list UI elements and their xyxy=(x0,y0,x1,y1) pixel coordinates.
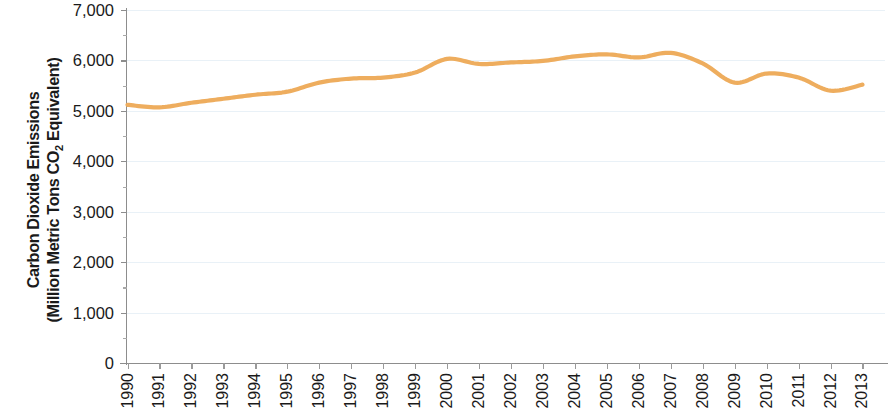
x-tick-label-2007: 2007 xyxy=(663,373,679,409)
x-tick-label-2005: 2005 xyxy=(599,373,615,409)
x-tick-label-2010: 2010 xyxy=(759,373,775,409)
x-tick-label-1996: 1996 xyxy=(311,373,327,409)
y-tick-0 xyxy=(121,363,127,364)
gridline-3000 xyxy=(127,212,885,213)
x-tick-2005 xyxy=(607,363,608,369)
x-tick-2012 xyxy=(831,363,832,369)
x-tick-label-1992: 1992 xyxy=(183,373,199,409)
x-tick-label-1990: 1990 xyxy=(120,373,136,409)
x-tick-2009 xyxy=(735,363,736,369)
y-tick-1000 xyxy=(121,313,127,314)
x-tick-1995 xyxy=(287,363,288,369)
y-tick-label-2000: 2,000 xyxy=(42,253,114,272)
y-tick-label-3000: 3,000 xyxy=(42,202,114,221)
x-tick-2006 xyxy=(639,363,640,369)
x-tick-label-2012: 2012 xyxy=(823,373,839,409)
x-tick-label-2013: 2013 xyxy=(854,373,870,409)
x-tick-1994 xyxy=(255,363,256,369)
gridline-2000 xyxy=(127,262,885,263)
x-tick-label-1991: 1991 xyxy=(151,373,167,409)
x-tick-2010 xyxy=(767,363,768,369)
x-tick-2002 xyxy=(511,363,512,369)
gridline-6000 xyxy=(127,60,885,61)
y-tick-label-7000: 7,000 xyxy=(42,1,114,20)
x-tick-2001 xyxy=(479,363,480,369)
y-tick-6000 xyxy=(121,60,127,61)
plot-area xyxy=(127,10,885,363)
x-tick-label-2009: 2009 xyxy=(727,373,743,409)
x-tick-1997 xyxy=(351,363,352,369)
x-tick-1993 xyxy=(223,363,224,369)
y-axis-tick-labels: 7,0006,0005,0004,0003,0002,0001,0000 xyxy=(46,10,120,363)
x-tick-label-1995: 1995 xyxy=(279,373,295,409)
co2-emissions-line-chart: Carbon Dioxide Emissions (Million Metric… xyxy=(0,0,894,415)
y-tick-label-0: 0 xyxy=(42,354,114,373)
x-tick-2008 xyxy=(703,363,704,369)
y-tick-5000 xyxy=(121,111,127,112)
x-tick-label-2002: 2002 xyxy=(503,373,519,409)
y-tick-label-6000: 6,000 xyxy=(42,51,114,70)
x-tick-label-2004: 2004 xyxy=(567,373,583,409)
y-tick-minor-1500 xyxy=(123,287,127,288)
x-tick-label-2006: 2006 xyxy=(631,373,647,409)
x-tick-1999 xyxy=(415,363,416,369)
x-tick-1991 xyxy=(159,363,160,369)
y-tick-7000 xyxy=(121,10,127,11)
x-tick-1998 xyxy=(383,363,384,369)
y-tick-2000 xyxy=(121,262,127,263)
x-tick-label-1994: 1994 xyxy=(247,373,263,409)
x-tick-2013 xyxy=(862,363,863,369)
x-tick-1996 xyxy=(319,363,320,369)
y-tick-3000 xyxy=(121,212,127,213)
x-tick-2003 xyxy=(543,363,544,369)
x-tick-label-2011: 2011 xyxy=(791,373,807,407)
x-tick-1992 xyxy=(191,363,192,369)
x-tick-2004 xyxy=(575,363,576,369)
x-tick-2011 xyxy=(799,363,800,369)
y-tick-4000 xyxy=(121,161,127,162)
x-tick-1990 xyxy=(128,363,129,369)
gridline-4000 xyxy=(127,161,885,162)
y-tick-minor-4500 xyxy=(123,136,127,137)
x-tick-2007 xyxy=(671,363,672,369)
y-tick-label-1000: 1,000 xyxy=(42,303,114,322)
x-tick-label-1997: 1997 xyxy=(343,373,359,409)
y-axis-title-line1: Carbon Dioxide Emissions xyxy=(23,92,43,289)
y-tick-minor-500 xyxy=(123,338,127,339)
y-tick-minor-3500 xyxy=(123,187,127,188)
gridline-1000 xyxy=(127,313,885,314)
x-tick-label-2003: 2003 xyxy=(535,373,551,409)
gridline-5000 xyxy=(127,111,885,112)
gridline-7000 xyxy=(127,10,885,11)
x-tick-label-1993: 1993 xyxy=(215,373,231,409)
y-tick-label-4000: 4,000 xyxy=(42,152,114,171)
y-tick-minor-5500 xyxy=(123,86,127,87)
y-tick-minor-2500 xyxy=(123,237,127,238)
x-tick-label-1998: 1998 xyxy=(375,373,391,409)
y-tick-minor-6500 xyxy=(123,35,127,36)
x-tick-label-2000: 2000 xyxy=(439,373,455,409)
x-tick-2000 xyxy=(447,363,448,369)
x-tick-label-2001: 2001 xyxy=(471,373,487,409)
y-tick-label-5000: 5,000 xyxy=(42,101,114,120)
x-tick-label-2008: 2008 xyxy=(695,373,711,409)
x-tick-label-1999: 1999 xyxy=(407,373,423,409)
